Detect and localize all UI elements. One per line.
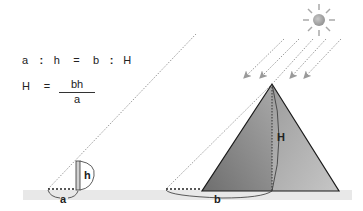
ratio-b: b [90,54,102,66]
sun-icon [303,4,335,36]
stick-height-label: h [84,169,91,181]
stick-shadow-label: a [60,193,67,205]
ratio-formula: a : h = b : H [22,54,133,66]
solution-equals: = [37,80,57,92]
ratio-h: h [51,54,63,66]
pyramid [202,84,339,191]
sun-rays [246,39,341,82]
shadow-height-diagram: H b h a [0,0,363,211]
fraction: bh a [59,78,95,106]
ratio-H: H [121,54,133,66]
stick [76,161,80,190]
ratio-colon-1: : [36,54,48,66]
fraction-denominator: a [59,93,95,106]
ratio-equals: = [67,54,87,66]
fraction-numerator: bh [59,78,95,93]
pyramid-shadow-label: b [214,193,221,205]
ratio-colon-2: : [106,54,118,66]
pyramid-height-label: H [277,131,285,143]
solution-formula: H = bh a [22,80,57,92]
ratio-a: a [22,54,32,66]
solution-lhs: H [22,80,34,92]
